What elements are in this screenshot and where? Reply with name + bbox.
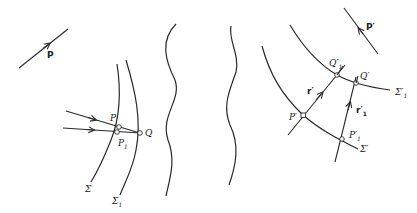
- optics-diagram: P Σ Σ1 P P1 Q P′ Σ′ Σ′1: [0, 0, 417, 213]
- ray-lower-arrow-icon: [86, 130, 93, 131]
- surface-sigma1-label: Σ1: [111, 196, 122, 208]
- surface-sigma-label: Σ: [84, 184, 92, 194]
- ray-r1-prime: [335, 77, 356, 162]
- point-P: [117, 125, 122, 130]
- point-P1-label: P1: [117, 138, 128, 150]
- ray-r-prime-arrow-icon: [316, 93, 322, 100]
- wavy-separator-left: [166, 24, 177, 196]
- wavy-separator-right: [227, 26, 237, 185]
- point-Q-label: Q: [145, 128, 153, 138]
- surface-sigma1-prime: [290, 25, 390, 90]
- vector-P-prime: P′: [344, 8, 378, 54]
- point-P1: [115, 130, 120, 135]
- left-points: P P1 Q: [109, 113, 153, 150]
- ray-upper: [66, 111, 140, 133]
- point-P1-prime-label: P′1: [348, 130, 361, 142]
- surface-sigma-prime: [262, 46, 358, 149]
- left-rays: [63, 111, 140, 133]
- point-P1-prime: [340, 137, 345, 142]
- point-Q-prime-label: Q′: [360, 71, 369, 81]
- left-surfaces: Σ Σ1: [84, 60, 138, 208]
- right-points: P′ P′1 Q′1 Q′: [288, 58, 369, 142]
- point-P-prime-label: P′: [288, 112, 297, 122]
- surface-sigma1-prime-label: Σ′1: [394, 87, 407, 99]
- right-surfaces: Σ′ Σ′1: [262, 25, 407, 154]
- point-Q: [138, 131, 143, 136]
- point-P-prime: [301, 113, 306, 118]
- vector-P: P: [19, 29, 68, 68]
- vector-P-prime-label: P′: [366, 22, 376, 32]
- ray-lower: [63, 128, 140, 133]
- ray-r1-prime-label: r′1: [356, 105, 367, 117]
- vector-P-arrow-icon: [43, 44, 49, 49]
- vector-P-prime-arrow-icon: [359, 29, 363, 34]
- vector-P-label: P: [47, 50, 54, 60]
- point-Q1-prime-label: Q′1: [329, 58, 342, 70]
- wavy-separators: [166, 24, 237, 196]
- ray-upper-arrow-icon: [88, 118, 95, 120]
- diagram-canvas: P Σ Σ1 P P1 Q P′ Σ′ Σ′1: [0, 0, 417, 213]
- ray-r-prime-label: r′: [307, 86, 314, 96]
- surface-sigma-prime-label: Σ′: [359, 144, 368, 154]
- point-P-label: P: [109, 113, 117, 123]
